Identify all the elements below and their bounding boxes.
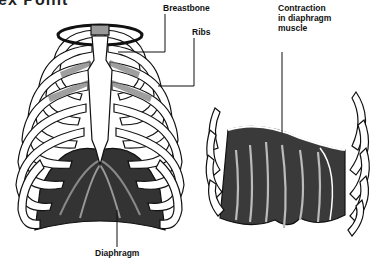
label-contraction-line-2: in diaphragm <box>278 13 331 23</box>
label-breastbone: Breastbone <box>163 3 210 13</box>
anatomy-illustration <box>0 0 383 264</box>
label-ribs: Ribs <box>192 27 210 37</box>
label-contraction-line-3: muscle <box>278 23 331 33</box>
label-contraction: Contraction in diaphragm muscle <box>278 3 331 33</box>
diaphragm-muscle <box>206 92 369 236</box>
label-contraction-line-1: Contraction <box>278 3 331 13</box>
label-diaphragm: Diaphragm <box>95 248 139 258</box>
rib-cage <box>16 25 184 230</box>
